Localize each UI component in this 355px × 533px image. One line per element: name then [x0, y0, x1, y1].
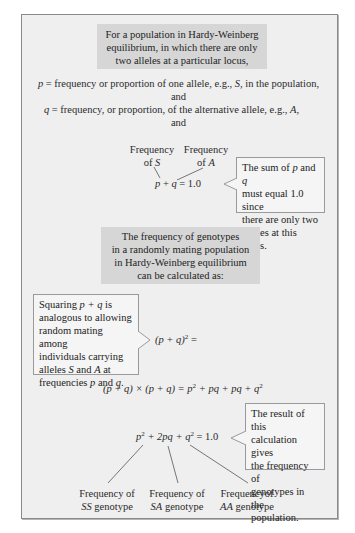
frequency-of-a-label: Frequency of A [181, 143, 231, 169]
sa-genotype-label: Frequency of SA genotype [146, 487, 208, 513]
sum-equation: p + q = 1.0 [155, 178, 201, 189]
genotype-line: The frequency of genotypes [101, 230, 260, 243]
genotype-line: can be calculated as: [101, 269, 260, 282]
ss-genotype-label: Frequency of SS genotype [76, 487, 138, 513]
q-definition: q = frequency, or proportion, of the alt… [14, 104, 329, 116]
intro-line: two alleles at a particular locus, [97, 54, 267, 67]
genotype-line: in a randomly mating population [101, 243, 260, 256]
squaring-callout: Squaring p + q is analogous to allowing … [33, 294, 139, 375]
aa-genotype-label: Frequencyof AA genotype [216, 487, 278, 513]
expansion-equation: (p + q) × (p + q) = p2 + pq + pq + q2 [103, 383, 263, 394]
intro-box: For a population in Hardy-Weinberg equil… [97, 24, 267, 69]
frequency-of-s-label: Frequency of S [127, 143, 177, 169]
intro-line: equilibrium, in which there are only [97, 41, 267, 54]
genotype-box: The frequency of genotypes in a randomly… [101, 227, 260, 284]
result-callout: The result of this calculation gives the… [245, 403, 325, 470]
genotype-line: in Hardy-Weinberg equilibrium [101, 256, 260, 269]
p-definition: p = frequency or proportion of one allel… [21, 78, 336, 90]
and-text: and [21, 91, 336, 103]
square-equation: (p + q)2 = [155, 334, 197, 345]
sum-callout: The sum of p and q must equal 1.0 since … [236, 157, 325, 213]
intro-line: For a population in Hardy-Weinberg [97, 28, 267, 41]
and-text: and [21, 117, 336, 129]
result-equation: p2 + 2pq + q2 = 1.0 [136, 431, 218, 442]
